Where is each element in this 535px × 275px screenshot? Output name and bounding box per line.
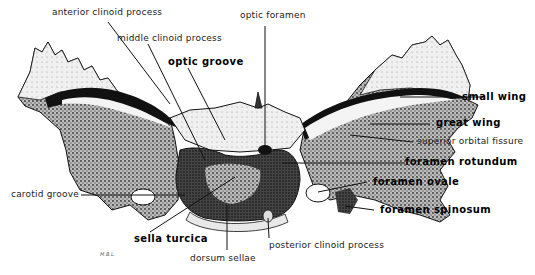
label-posterior-clinoid-process: posterior clinoid process — [269, 240, 384, 250]
label-optic-foramen: optic foramen — [240, 10, 306, 20]
label-superior-orbital-fissure: superior orbital fissure — [417, 136, 523, 146]
label-dorsum-sellae: dorsum sellae — [190, 253, 256, 263]
sphenoid-diagram: anterior clinoid process middle clinoid … — [0, 0, 535, 275]
illustrator-signature: M.B.L. — [100, 251, 115, 257]
label-foramen-ovale: foramen ovale — [373, 176, 459, 187]
label-foramen-rotundum: foramen rotundum — [405, 156, 518, 167]
sphenoid-body — [170, 92, 305, 232]
label-carotid-groove: carotid groove — [11, 189, 79, 199]
label-small-wing: small wing — [462, 91, 526, 102]
label-foramen-spinosum: foramen spinosum — [380, 204, 491, 215]
label-optic-groove: optic groove — [168, 56, 244, 67]
label-sella-turcica: sella turcica — [134, 233, 208, 244]
label-great-wing: great wing — [436, 117, 501, 128]
label-anterior-clinoid-process: anterior clinoid process — [52, 7, 162, 17]
right-great-wing — [300, 36, 478, 222]
label-middle-clinoid-process: middle clinoid process — [117, 33, 222, 43]
